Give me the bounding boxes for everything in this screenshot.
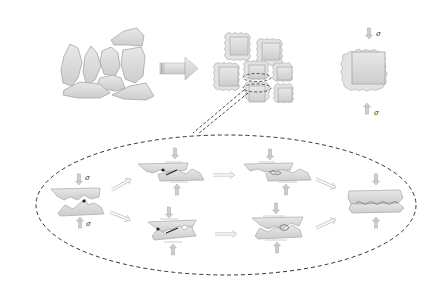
compression-arrow-up-icon [274, 242, 281, 253]
stage-lower-compression-2 [252, 203, 303, 253]
arrow-lower2-to-final [315, 216, 338, 231]
compression-arrow-up-icon [364, 103, 371, 114]
compression-arrow-down-icon [172, 148, 179, 159]
compression-arrow-down-icon [273, 203, 280, 214]
compression-arrow-up-icon [373, 217, 380, 228]
stage-final-bonded [348, 174, 404, 228]
zoom-connector-lines [193, 90, 248, 134]
stress-label-bottom: σ [86, 220, 91, 228]
compression-arrow-up-icon [283, 184, 290, 195]
compression-arrow-up-icon [77, 217, 84, 228]
compression-arrow-down-icon [166, 207, 173, 218]
compression-arrow-up-icon [174, 184, 181, 195]
compression-arrow-up-icon [170, 244, 177, 255]
diagram-canvas: σ σ σ σ [0, 0, 435, 298]
transition-arrows [109, 172, 338, 238]
compression-arrow-down-icon [366, 28, 373, 39]
stage-lower-compression-1 [148, 207, 196, 255]
loose-particles [61, 28, 154, 100]
arrow-upper1-to-upper2 [213, 172, 235, 179]
arrow-initial-to-lower [109, 209, 132, 224]
arrow-lower1-to-lower2 [215, 231, 237, 238]
packed-coated-grains [214, 33, 294, 103]
compression-arrow-down-icon [373, 174, 380, 185]
stage-initial-contact: σ σ [51, 174, 104, 228]
stress-label-top: σ [376, 30, 381, 38]
single-coated-grain: σ σ [341, 28, 387, 117]
compression-arrow-down-icon [267, 149, 274, 160]
stress-label-top: σ [85, 174, 90, 182]
arrow-initial-to-upper [110, 176, 133, 193]
arrow-upper2-to-final [315, 176, 338, 191]
block-right-arrow-icon [160, 57, 198, 80]
stage-upper-shear-1 [138, 148, 204, 195]
stage-upper-shear-2 [244, 149, 311, 195]
compression-arrow-down-icon [76, 174, 83, 185]
stress-label-bottom: σ [374, 109, 379, 117]
